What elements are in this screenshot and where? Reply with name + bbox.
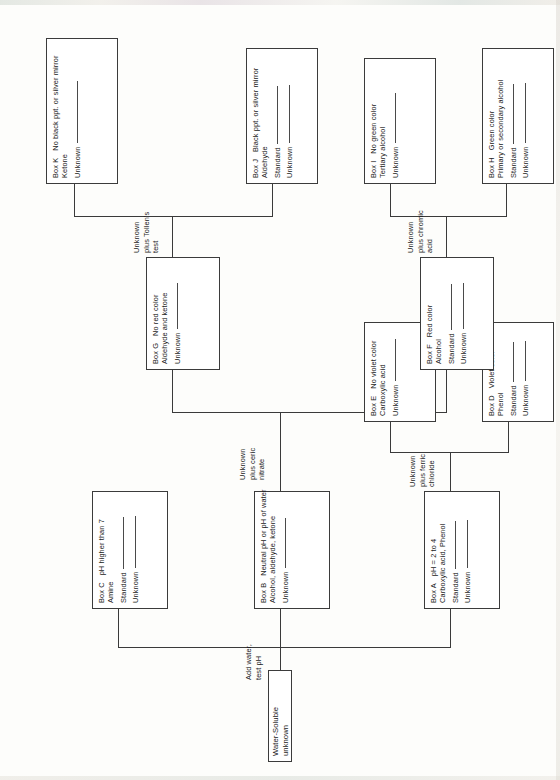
fill-line — [460, 520, 468, 568]
node-box-g-compounds: Aldehyde and ketone — [160, 263, 169, 364]
connector-to-boxG — [172, 370, 173, 413]
edge-label-tollens-line2: plus Tollen's — [142, 212, 152, 253]
node-box-a-field-unknown: Unknown — [460, 497, 472, 603]
connector-boxF-out — [446, 217, 447, 257]
node-box-h-field-standard: Standard — [506, 54, 518, 178]
edge-label-chromic-line3: acid — [425, 210, 435, 253]
node-box-a-field-standard: Standard — [448, 497, 460, 603]
node-box-c-header: Box CpH higher than 7 — [97, 497, 106, 603]
node-box-a-compounds: Carboxylic acid, Phenol — [438, 497, 447, 603]
node-box-b-compounds: Alcohol, aldehyde, ketone — [268, 497, 277, 603]
edge-label-ferric-line2: plus ferric — [418, 454, 428, 487]
edge-label-ceric-line1: Unknown — [238, 448, 248, 480]
fill-line — [388, 93, 396, 143]
node-box-c-result: pH higher than 7 — [97, 519, 106, 575]
node-box-k-result: No black ppt. or silver mirror — [51, 55, 60, 150]
edge-label-ceric-line3: nitrate — [257, 448, 267, 480]
fill-line — [270, 86, 278, 144]
connector-boxG-out — [172, 217, 173, 257]
node-box-b-result: Neutral pH or pH of water — [259, 489, 268, 575]
node-box-f-field-standard: Standard — [444, 263, 456, 364]
fill-line — [70, 81, 78, 143]
node-box-d-compounds: Phenol — [496, 328, 505, 416]
node-box-j-field-standard: Standard — [270, 54, 282, 178]
edge-label-chromic-acid: Unknown plus chromic acid — [406, 210, 435, 253]
fill-line — [116, 517, 124, 569]
node-box-a-tag: Box A — [429, 576, 438, 603]
node-box-j-result: Black ppt. or silver mirror — [251, 68, 260, 152]
node-box-f-result: Red color — [425, 305, 434, 338]
node-root[interactable]: Water-Soluble unknown — [268, 670, 292, 762]
node-box-k[interactable]: Box KNo black ppt. or silver mirror Keto… — [46, 38, 118, 184]
connector-ferric-split — [390, 452, 508, 453]
edge-label-add-water-line1: Add water, — [244, 644, 254, 680]
node-box-i-compounds: Tertiary alcohol — [378, 64, 387, 178]
fill-line — [456, 283, 464, 329]
node-box-c[interactable]: Box CpH higher than 7 Amine Standard Unk… — [92, 491, 168, 609]
node-box-c-compounds: Amine — [106, 497, 115, 603]
node-box-i-tag: Box I — [369, 154, 378, 178]
node-box-b[interactable]: Box BNeutral pH or pH of water Alcohol, … — [254, 491, 330, 609]
node-box-b-field-unknown: Unknown — [278, 497, 290, 603]
fill-line — [506, 84, 514, 144]
edge-label-chromic-line1: Unknown — [406, 210, 416, 253]
node-box-h[interactable]: Box HGreen color Primary or secondary al… — [482, 48, 554, 184]
node-box-g-tag: Box G — [151, 336, 160, 364]
node-box-j-header: Box JBlack ppt. or silver mirror — [251, 54, 260, 178]
node-box-g-result: No red color — [151, 294, 160, 335]
connector-to-boxF — [446, 370, 447, 413]
fill-line — [128, 516, 136, 568]
connector-main-split — [118, 647, 450, 648]
node-box-a[interactable]: Box ApH = 2 to 4 Carboxylic acid, Phenol… — [424, 491, 500, 609]
edge-label-ferric-line1: Unknown — [408, 454, 418, 487]
node-box-d-field-unknown: Unknown — [518, 328, 530, 416]
connector-tollens-split — [74, 216, 272, 217]
edge-label-ferric-chloride: Unknown plus ferric chloride — [408, 454, 437, 487]
connector-root-to-split — [280, 648, 281, 670]
fill-line — [170, 283, 178, 329]
connector-to-boxH — [506, 184, 507, 217]
node-box-k-header: Box KNo black ppt. or silver mirror — [51, 44, 60, 178]
node-box-a-result: pH = 2 to 4 — [429, 539, 438, 576]
node-box-h-result: Green color — [487, 111, 496, 151]
fill-line — [282, 85, 290, 143]
connector-boxA-out — [450, 453, 451, 491]
node-box-k-compounds: Ketone — [60, 44, 69, 178]
connector-to-boxA — [450, 609, 451, 648]
node-root-label: Water-Soluble unknown — [271, 676, 290, 756]
edge-label-ferric-line3: chloride — [427, 454, 437, 487]
connector-to-boxE — [390, 422, 391, 453]
fill-line — [388, 339, 396, 381]
node-box-e-tag: Box E — [369, 389, 378, 416]
node-box-h-header: Box HGreen color — [487, 54, 496, 178]
node-box-c-tag: Box C — [97, 575, 106, 603]
node-box-j[interactable]: Box JBlack ppt. or silver mirror Aldehyd… — [246, 48, 318, 184]
edge-label-add-water: Add water, test pH — [244, 644, 263, 680]
node-box-f-header: Box FRed color — [425, 263, 434, 364]
node-box-c-field-unknown: Unknown — [128, 497, 140, 603]
fill-line — [518, 83, 526, 143]
node-box-b-header: Box BNeutral pH or pH of water — [259, 497, 268, 603]
fill-line — [444, 284, 452, 330]
node-box-i[interactable]: Box INo green color Tertiary alcohol Unk… — [364, 58, 436, 184]
fill-line — [448, 521, 456, 569]
node-box-c-field-standard: Standard — [116, 497, 128, 603]
node-box-j-field-unknown: Unknown — [282, 54, 294, 178]
connector-to-boxI — [390, 184, 391, 217]
node-box-f[interactable]: Box FRed color Alcohol Standard Unknown — [420, 257, 494, 370]
connector-to-boxB — [280, 609, 281, 648]
node-box-g[interactable]: Box GNo red color Aldehyde and ketone Un… — [146, 257, 220, 370]
node-box-e-field-unknown: Unknown — [388, 328, 400, 416]
connector-boxB-out — [280, 413, 281, 491]
node-box-i-header: Box INo green color — [369, 64, 378, 178]
connector-to-boxC — [118, 609, 119, 648]
node-box-e-compounds: Carboxylic acid — [378, 328, 387, 416]
edge-label-tollens-line1: Unknown — [132, 212, 142, 253]
node-box-h-field-unknown: Unknown — [518, 54, 530, 178]
edge-label-ceric-nitrate: Unknown plus ceric nitrate — [238, 448, 267, 480]
node-box-d-tag: Box D — [487, 388, 496, 416]
connector-to-boxJ — [272, 184, 273, 217]
node-box-j-compounds: Aldehyde — [260, 54, 269, 178]
node-box-k-field-unknown: Unknown — [70, 44, 82, 178]
node-box-e-header: Box ENo violet color — [369, 328, 378, 416]
